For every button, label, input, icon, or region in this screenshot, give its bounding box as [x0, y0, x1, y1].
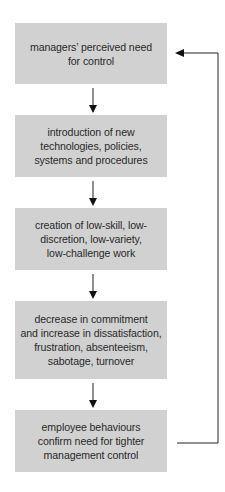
node-label: managers’ perceived need for control	[30, 40, 152, 68]
label-line: confirm need for tighter	[38, 434, 145, 448]
arrowhead-down-icon	[89, 400, 97, 408]
node-employee-behaviours-confirm: employee behaviours confirm need for tig…	[15, 410, 167, 472]
label-line: for control	[30, 54, 152, 68]
node-creation-of-low-skill-work: creation of low-skill, low- discretion, …	[15, 208, 167, 270]
arrowhead-left-icon	[175, 49, 184, 57]
arrowhead-down-icon	[89, 198, 97, 206]
label-line: managers’ perceived need	[30, 40, 152, 54]
label-line: decrease in commitment	[20, 312, 161, 326]
node-label: employee behaviours confirm need for tig…	[38, 420, 145, 462]
label-line: and increase in dissatisfaction,	[20, 326, 161, 340]
node-decrease-in-commitment: decrease in commitment and increase in d…	[15, 301, 167, 379]
label-line: introduction of new	[34, 125, 147, 139]
label-line: low-challenge work	[35, 246, 147, 260]
label-line: discretion, low-variety,	[35, 232, 147, 246]
label-line: employee behaviours	[38, 420, 145, 434]
arrowhead-down-icon	[89, 105, 97, 113]
node-label: creation of low-skill, low- discretion, …	[35, 218, 147, 260]
node-label: decrease in commitment and increase in d…	[20, 312, 161, 368]
feedback-loop-line	[177, 53, 218, 443]
node-managers-perceived-need: managers’ perceived need for control	[15, 23, 167, 84]
label-line: systems and procedures	[34, 153, 147, 167]
label-line: frustration, absenteeism,	[20, 340, 161, 354]
label-line: creation of low-skill, low-	[35, 218, 147, 232]
label-line: technologies, policies,	[34, 139, 147, 153]
arrowhead-down-icon	[89, 291, 97, 299]
node-introduction-of-new-technologies: introduction of new technologies, polici…	[15, 115, 167, 177]
label-line: management control	[38, 448, 145, 462]
label-line: sabotage, turnover	[20, 354, 161, 368]
node-label: introduction of new technologies, polici…	[34, 125, 147, 167]
